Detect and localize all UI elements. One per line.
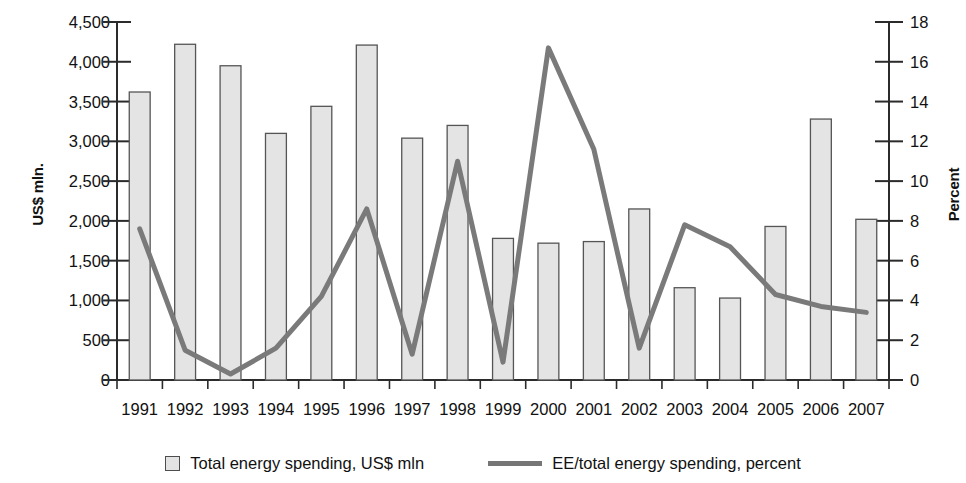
bar <box>674 288 695 380</box>
bar <box>810 119 831 380</box>
bar <box>538 243 559 380</box>
square-swatch-icon <box>165 456 180 471</box>
legend-label-bars: Total energy spending, US$ mln <box>190 454 424 473</box>
legend-label-line: EE/total energy spending, percent <box>552 454 801 473</box>
bar <box>720 298 741 380</box>
chart-legend: Total energy spending, US$ mln EE/total … <box>0 448 966 478</box>
bar-series <box>129 44 876 380</box>
plot-area <box>0 0 966 483</box>
bar <box>311 106 332 380</box>
bar <box>583 242 604 380</box>
chart-figure: US$ mln. Percent 05001,0001,5002,0002,50… <box>0 0 966 483</box>
bar <box>765 226 786 380</box>
bar <box>220 66 241 380</box>
legend-item-bars: Total energy spending, US$ mln <box>165 454 424 473</box>
bar <box>856 219 877 380</box>
bar <box>129 92 150 380</box>
bar <box>629 209 650 380</box>
legend-item-line: EE/total energy spending, percent <box>488 454 801 473</box>
line-swatch-icon <box>488 461 542 466</box>
